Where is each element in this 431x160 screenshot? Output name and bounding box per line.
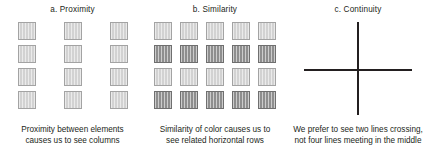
caption-line: Proximity between elements xyxy=(0,124,145,135)
grid-square xyxy=(258,68,276,86)
grid-square xyxy=(180,68,198,86)
gestalt-principles-figure: a. Proximity xyxy=(0,0,431,160)
grid-square xyxy=(258,22,276,40)
grid-square xyxy=(232,22,250,40)
grid-square xyxy=(206,45,224,63)
grid-square xyxy=(232,45,250,63)
grid-row xyxy=(140,22,290,40)
grid-square xyxy=(110,22,128,40)
caption-line: We prefer to see two lines crossing, xyxy=(285,124,431,135)
grid-square xyxy=(154,68,172,86)
panel-title-proximity: a. Proximity xyxy=(0,5,145,14)
grid-row xyxy=(0,68,145,86)
panel-caption-continuity: We prefer to see two lines crossing, not… xyxy=(285,124,431,146)
panel-continuity: c. Continuity We prefer to see two lines… xyxy=(285,0,431,160)
grid-square xyxy=(180,45,198,63)
grid-square xyxy=(18,45,36,63)
grid-square xyxy=(180,22,198,40)
grid-square xyxy=(232,91,250,109)
grid-square xyxy=(258,45,276,63)
panel-caption-similarity: Similarity of color causes us to see rel… xyxy=(140,124,290,146)
grid-row xyxy=(0,91,145,109)
grid-row xyxy=(140,91,290,109)
panel-similarity: b. Similarity xyxy=(140,0,290,160)
caption-line: not four lines meeting in the middle xyxy=(285,135,431,146)
grid-row xyxy=(140,45,290,63)
grid-square xyxy=(18,68,36,86)
grid-row xyxy=(0,45,145,63)
grid-square xyxy=(64,45,82,63)
grid-square xyxy=(180,91,198,109)
horizontal-line xyxy=(304,69,412,71)
grid-square xyxy=(64,91,82,109)
grid-square xyxy=(206,91,224,109)
grid-square xyxy=(206,68,224,86)
grid-square xyxy=(110,91,128,109)
grid-square xyxy=(64,22,82,40)
grid-square xyxy=(154,45,172,63)
grid-square xyxy=(18,22,36,40)
grid-square xyxy=(232,68,250,86)
panel-proximity: a. Proximity xyxy=(0,0,145,160)
similarity-square-grid xyxy=(140,22,290,114)
grid-square xyxy=(258,91,276,109)
caption-line: see related horizontal rows xyxy=(140,135,290,146)
grid-square xyxy=(18,91,36,109)
grid-square xyxy=(154,91,172,109)
proximity-square-grid xyxy=(0,22,145,114)
panel-caption-proximity: Proximity between elements causes us to … xyxy=(0,124,145,146)
caption-line: Similarity of color causes us to xyxy=(140,124,290,135)
grid-square xyxy=(154,22,172,40)
caption-line: causes us to see columns xyxy=(0,135,145,146)
panel-title-similarity: b. Similarity xyxy=(140,5,290,14)
grid-square xyxy=(206,22,224,40)
grid-row xyxy=(140,68,290,86)
grid-square xyxy=(64,68,82,86)
grid-row xyxy=(0,22,145,40)
grid-square xyxy=(110,45,128,63)
grid-square xyxy=(110,68,128,86)
